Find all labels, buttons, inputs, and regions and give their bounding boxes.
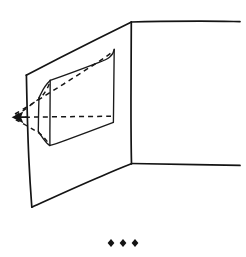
right-wall-top-edge — [132, 21, 241, 22]
wall-corner-edge — [131, 22, 132, 164]
window-rim-right-edge — [113, 49, 114, 122]
figure-container: Perspective drawing of a wall corner wit… — [0, 0, 246, 257]
paper-background — [0, 0, 246, 257]
perspective-drawing — [0, 0, 246, 257]
window-reveal-left-edge — [38, 98, 39, 132]
